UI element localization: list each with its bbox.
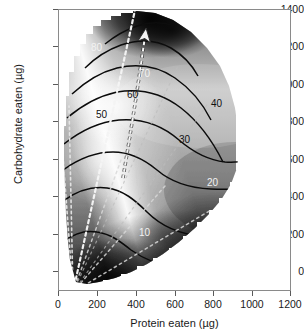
x-tick-label-800: 800 — [193, 299, 233, 309]
contour-label-10: 10 — [139, 228, 150, 238]
plot-inner: 80 70 60 50 40 30 20 10 — [59, 10, 290, 290]
contour-label-20: 20 — [207, 178, 218, 188]
contour-label-30: 30 — [179, 135, 190, 145]
contour-label-60: 60 — [127, 90, 138, 100]
x-tick-label-600: 600 — [155, 299, 195, 309]
x-tick-mark-600 — [175, 291, 176, 296]
contour-label-70: 70 — [139, 69, 150, 79]
x-tick-mark-1200 — [290, 291, 291, 296]
x-tick-label-0: 0 — [38, 299, 78, 309]
x-tick-label-1000: 1000 — [232, 299, 272, 309]
x-tick-mark-400 — [136, 291, 137, 296]
y-axis-title: Carbohydrate eaten (µg) — [12, 44, 24, 204]
plot-area: 80 70 60 50 40 30 20 10 — [58, 9, 291, 291]
x-tick-mark-200 — [97, 291, 98, 296]
x-tick-label-1200: 1200 — [270, 299, 304, 309]
x-tick-mark-0 — [58, 291, 59, 296]
contour-label-80: 80 — [91, 43, 102, 53]
x-axis-title: Protein eaten (µg) — [58, 317, 291, 329]
x-tick-mark-1000 — [252, 291, 253, 296]
x-tick-mark-800 — [213, 291, 214, 296]
contour-label-50: 50 — [96, 110, 107, 120]
x-tick-label-400: 400 — [116, 299, 156, 309]
figure-container: 1400 1200 1000 800 600 400 200 0 Carbohy… — [0, 0, 304, 335]
x-tick-label-200: 200 — [77, 299, 117, 309]
contour-label-40: 40 — [211, 99, 222, 109]
